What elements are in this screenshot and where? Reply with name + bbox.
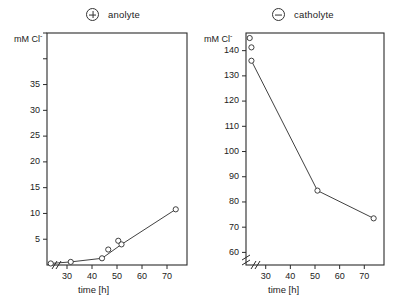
data-point-marker — [315, 188, 320, 193]
panel-anolyte: anolyte mM Cl- time [h] 3040506070510152… — [0, 0, 196, 306]
y-tick-label: 5 — [35, 234, 40, 244]
plot-frame — [246, 33, 384, 265]
y-tick-label: 25 — [30, 130, 40, 140]
y-tick-label: 30 — [30, 105, 40, 115]
plot-area-catholyte: 304050607060708090100110120130140 — [196, 0, 393, 306]
plot-area-anolyte: 30405060705101520253035 — [0, 0, 196, 306]
data-point-marker — [371, 216, 376, 221]
y-tick-label: 90 — [229, 171, 239, 181]
x-tick-label: 30 — [62, 271, 72, 281]
x-tick-label: 70 — [359, 271, 369, 281]
y-tick-label: 35 — [30, 79, 40, 89]
x-tick-label: 60 — [137, 271, 147, 281]
y-tick-label: 100 — [224, 146, 239, 156]
y-tick-label: 80 — [229, 196, 239, 206]
y-tick-label: 120 — [224, 95, 239, 105]
y-tick-label: 140 — [224, 45, 239, 55]
data-line — [251, 61, 373, 219]
data-point-marker — [68, 259, 73, 264]
data-point-marker — [173, 207, 178, 212]
x-tick-label: 40 — [285, 271, 295, 281]
x-tick-label: 50 — [112, 271, 122, 281]
data-point-marker — [99, 256, 104, 261]
figure-root: anolyte mM Cl- time [h] 3040506070510152… — [0, 0, 393, 306]
data-line — [51, 209, 176, 263]
y-tick-label: 60 — [229, 247, 239, 257]
panel-catholyte: catholyte mM Cl- time [h] 30405060706070… — [196, 0, 393, 306]
data-point-marker — [247, 35, 252, 40]
y-tick-label: 130 — [224, 70, 239, 80]
data-point-marker — [119, 242, 124, 247]
y-tick-label: 110 — [225, 121, 239, 131]
x-tick-label: 30 — [261, 271, 271, 281]
plot-frame — [47, 33, 187, 265]
x-tick-label: 60 — [335, 271, 345, 281]
y-tick-label: 70 — [229, 222, 239, 232]
y-tick-label: 15 — [30, 182, 40, 192]
x-tick-label: 40 — [87, 271, 97, 281]
y-tick-label: 20 — [30, 156, 40, 166]
x-tick-label: 70 — [162, 271, 172, 281]
data-point-marker — [249, 45, 254, 50]
data-point-marker — [249, 58, 254, 63]
data-point-marker — [48, 261, 53, 266]
x-tick-label: 50 — [310, 271, 320, 281]
data-point-marker — [106, 247, 111, 252]
y-tick-label: 10 — [30, 208, 40, 218]
